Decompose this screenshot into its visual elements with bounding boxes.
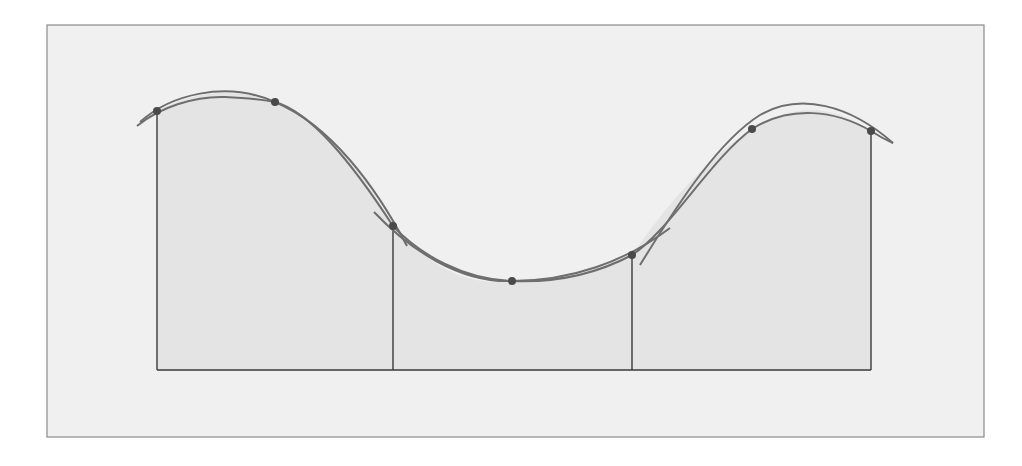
sample-point <box>389 222 397 230</box>
sample-point <box>628 251 636 259</box>
sample-point <box>748 125 756 133</box>
simpsons-rule-diagram <box>0 0 1022 466</box>
sample-point <box>271 98 279 106</box>
sample-point <box>153 107 161 115</box>
sample-point <box>867 127 875 135</box>
sample-point <box>508 277 516 285</box>
